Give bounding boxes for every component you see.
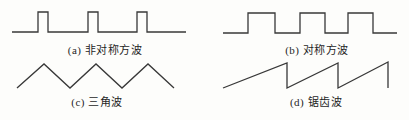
panel-label-triangle-wave: (c) 三角波 bbox=[71, 96, 122, 108]
waveform-triangle-wave bbox=[17, 64, 174, 88]
panel-label-sawtooth-wave: (d) 锯齿波 bbox=[290, 96, 342, 108]
waveform-pulse-wave bbox=[12, 12, 186, 32]
waveforms-canvas bbox=[0, 0, 409, 120]
panel-label-asymmetric-square-wave: (a) 非对称方波 bbox=[68, 44, 142, 56]
waveform-sawtooth-wave bbox=[223, 62, 388, 88]
panel-label-symmetric-square-wave: (b) 对称方波 bbox=[285, 44, 349, 56]
waveform-figure: (a) 非对称方波 (b) 对称方波 (c) 三角波 (d) 锯齿波 bbox=[0, 0, 409, 120]
waveform-square-wave bbox=[223, 13, 397, 33]
